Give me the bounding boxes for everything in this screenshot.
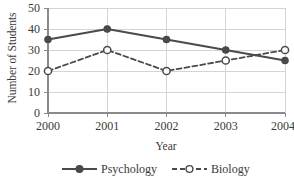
data-point-psychology-2002[interactable] (163, 36, 169, 42)
legend-label-biology: Biology (211, 162, 250, 176)
line-chart: Number of Students (0, 0, 294, 179)
y-tick-label-20: 20 (28, 64, 40, 78)
y-tick-label-0: 0 (34, 106, 40, 120)
y-tick-label-40: 40 (28, 22, 40, 36)
x-tick-label-2004: 2004 (271, 119, 294, 133)
x-axis-title: Year (155, 140, 176, 152)
x-tick-label-2000: 2000 (36, 119, 60, 133)
data-point-psychology-2003[interactable] (223, 47, 229, 53)
data-point-psychology-2000[interactable] (45, 36, 51, 42)
data-point-psychology-2004[interactable] (282, 57, 288, 63)
x-tick-label-2002: 2002 (155, 119, 179, 133)
data-point-biology-2002[interactable] (163, 67, 170, 74)
y-tick-label-50: 50 (28, 1, 40, 15)
x-tick-label-2003: 2003 (214, 119, 238, 133)
data-point-biology-2001[interactable] (104, 46, 111, 53)
legend-entry-psychology[interactable]: Psychology (62, 162, 157, 176)
legend-marker-open-circle (186, 166, 193, 173)
data-point-psychology-2001[interactable] (104, 26, 110, 32)
data-point-biology-2004[interactable] (281, 46, 288, 53)
legend: Psychology Biology (62, 162, 250, 176)
x-tick-labels: 2000 2001 2002 2003 2004 (36, 119, 294, 133)
x-tick-label-2001: 2001 (95, 119, 119, 133)
legend-marker-filled-circle (76, 166, 83, 173)
legend-label-psychology: Psychology (101, 162, 157, 176)
data-point-biology-2003[interactable] (222, 57, 229, 64)
data-point-biology-2000[interactable] (44, 67, 51, 74)
y-tick-labels: 50 40 30 20 10 0 (28, 1, 40, 120)
vertical-gridlines (107, 8, 285, 113)
legend-entry-biology[interactable]: Biology (172, 162, 250, 176)
y-tick-label-10: 10 (28, 85, 40, 99)
y-tick-label-30: 30 (28, 43, 40, 57)
plot-area: 50 40 30 20 10 0 2000 2001 2002 2003 200… (0, 0, 294, 179)
